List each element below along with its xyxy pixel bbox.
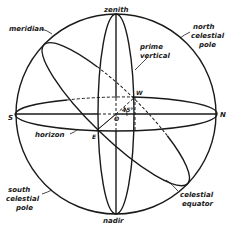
horizon-back-left xyxy=(15,100,67,114)
label-zenith: zenith xyxy=(103,6,129,14)
e-o-segment xyxy=(96,114,116,131)
label-point-o: O xyxy=(114,115,119,122)
label-point-s: S xyxy=(8,114,13,122)
label-nadir: nadir xyxy=(103,217,124,225)
label-north-pole-2: celestial xyxy=(191,32,225,40)
label-horizon: horizon xyxy=(35,131,65,139)
label-north-pole-3: pole xyxy=(198,41,216,49)
label-point-n: N xyxy=(220,111,226,119)
label-point-e: E xyxy=(92,133,97,140)
label-prime-vertical-2: vertical xyxy=(140,52,170,60)
south-pole-leader xyxy=(42,190,52,194)
label-south-pole-1: south xyxy=(8,186,30,194)
label-point-w: W xyxy=(136,89,143,96)
north-pole-leader xyxy=(180,32,190,38)
label-prime-vertical-1: prime xyxy=(139,43,163,51)
label-south-pole-2: celestial xyxy=(6,195,40,203)
label-angle: 45° xyxy=(122,106,133,113)
horizon-back-hidden xyxy=(67,97,134,100)
label-south-pole-3: pole xyxy=(15,204,33,212)
label-celestial-equator-2: equator xyxy=(182,200,214,208)
label-celestial-equator-1: celestial xyxy=(180,191,214,199)
label-meridian: meridian xyxy=(9,25,44,33)
label-north-pole-1: north xyxy=(193,23,215,31)
celestial-sphere-diagram: zenith nadir meridian north celestial po… xyxy=(0,0,232,228)
